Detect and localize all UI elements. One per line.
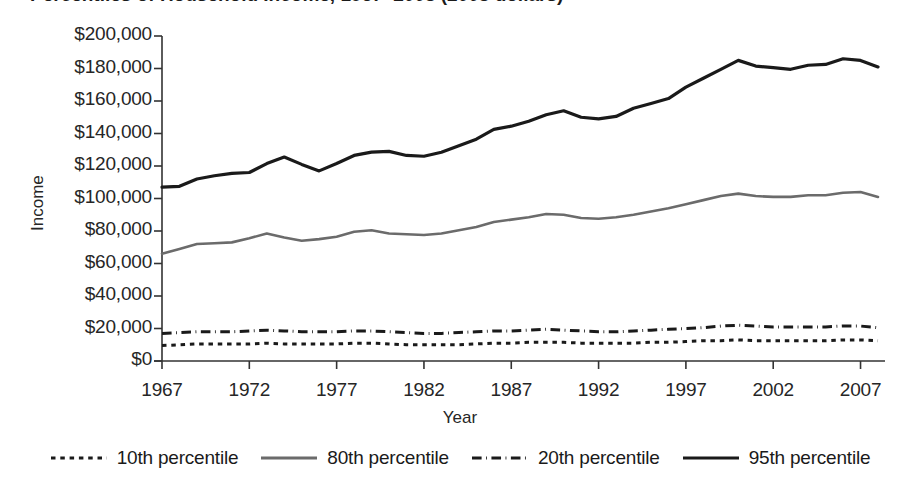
legend-label: 95th percentile (749, 447, 871, 469)
legend-label: 10th percentile (117, 447, 239, 469)
series-line-20th-percentile (162, 325, 878, 333)
legend-swatch-dotted (50, 451, 108, 465)
legend-label: 20th percentile (538, 447, 660, 469)
series-line-10th-percentile (162, 340, 878, 346)
income-percentile-chart: Percentiles of Household Income, 1967–20… (0, 0, 920, 485)
series-line-80th-percentile (162, 192, 878, 254)
legend-swatch-solid (260, 451, 318, 465)
plot-area (0, 0, 920, 485)
legend-label: 80th percentile (327, 447, 449, 469)
legend-item[interactable]: 80th percentile (260, 447, 449, 469)
chart-legend: 10th percentile80th percentile20th perce… (0, 447, 920, 469)
legend-item[interactable]: 20th percentile (471, 447, 660, 469)
series-line-95th-percentile (162, 59, 878, 187)
legend-item[interactable]: 95th percentile (682, 447, 871, 469)
legend-item[interactable]: 10th percentile (50, 447, 239, 469)
legend-swatch-solid (682, 451, 740, 465)
legend-swatch-dashdot (471, 451, 529, 465)
